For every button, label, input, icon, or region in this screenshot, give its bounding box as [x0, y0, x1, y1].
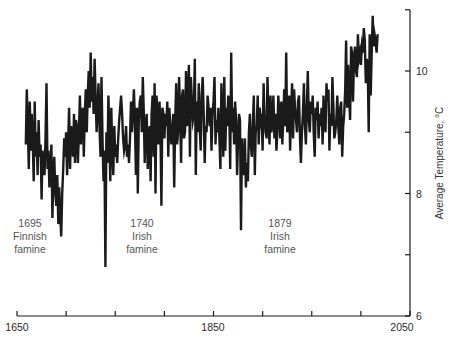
y-tick-label-6: 6 — [416, 310, 422, 322]
annotation-1740-year: 1740 — [130, 217, 154, 229]
x-tick-label-1650: 1650 — [5, 321, 29, 333]
annotation-1740: 1740 Irish famine — [126, 217, 158, 255]
annotation-1740-place: Irish — [132, 230, 152, 242]
annotation-1695: 1695 Finnish famine — [13, 217, 47, 255]
annotation-1879-place: Irish — [270, 230, 290, 242]
x-tick-label-2050: 2050 — [390, 321, 414, 333]
x-tick-label-1850: 1850 — [201, 321, 225, 333]
chart: 1650 1850 2050 6 8 10 Average Temperatur… — [0, 0, 450, 344]
annotation-1695-year: 1695 — [18, 217, 42, 229]
annotation-1879-event: famine — [264, 243, 296, 255]
y-tick-label-8: 8 — [416, 188, 422, 200]
x-ticks — [17, 311, 410, 316]
y-ticks — [405, 10, 410, 316]
y-axis-title: Average Temperature, °C — [434, 107, 445, 220]
x-axis: 1650 1850 2050 — [5, 311, 414, 333]
temperature-line — [26, 16, 378, 267]
annotation-1695-event: famine — [14, 243, 46, 255]
annotation-1879-year: 1879 — [268, 217, 292, 229]
annotation-1879: 1879 Irish famine — [264, 217, 296, 255]
annotation-1740-event: famine — [126, 243, 158, 255]
y-axis: 6 8 10 Average Temperature, °C — [405, 10, 445, 322]
plot-area — [26, 16, 378, 267]
annotation-1695-place: Finnish — [13, 230, 47, 242]
y-tick-label-10: 10 — [416, 65, 428, 77]
